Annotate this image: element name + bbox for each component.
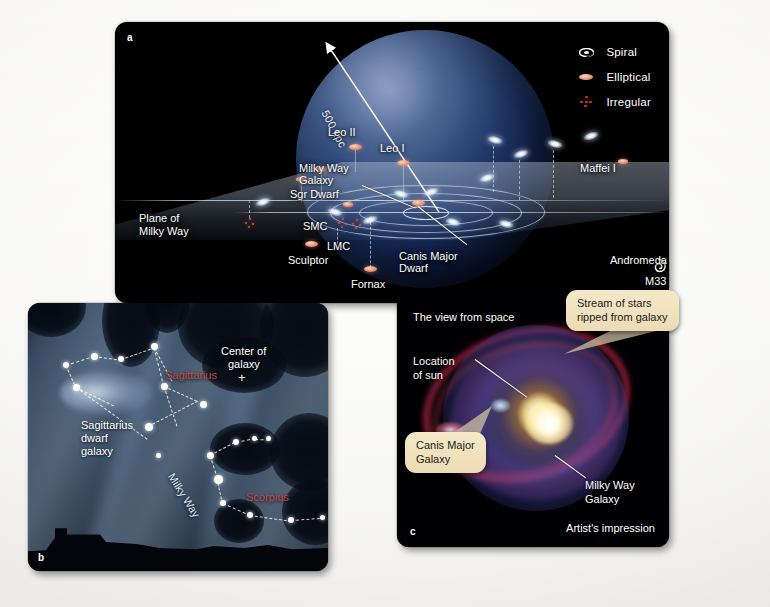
star-sgr-5 xyxy=(73,384,80,391)
label-artists-impression: Artist's impression xyxy=(566,522,655,536)
label-center-of-galaxy-line1: Center of xyxy=(221,345,266,358)
drop-line-irregular-left xyxy=(249,200,250,218)
star-sgr-4 xyxy=(151,343,158,350)
label-leo-i: Leo I xyxy=(380,142,404,155)
label-sgr-dwarf-line1: Sagittarius xyxy=(81,419,133,432)
marker-spiral-upper-right-3[interactable] xyxy=(582,130,600,143)
marker-canis-major-dwarf[interactable] xyxy=(412,200,425,206)
marker-sculptor[interactable] xyxy=(305,241,318,247)
label-m33: M33 xyxy=(645,275,666,288)
elliptical-icon xyxy=(575,74,597,81)
label-scorpius-constellation: Scorpius xyxy=(246,491,289,504)
label-milky-way-line1: Milky Way xyxy=(299,162,349,175)
label-maffei-i: Maffei I xyxy=(580,162,616,175)
star-sgr-7 xyxy=(145,423,153,431)
marker-spiral-left-outer[interactable] xyxy=(254,196,272,209)
label-sgr-dwarf-line2: dwarf xyxy=(81,432,108,445)
star-sgr-6 xyxy=(161,383,168,390)
plane-of-milky-way-label-line1: Plane of xyxy=(139,212,179,225)
label-andromeda: Andromeda xyxy=(610,254,667,267)
star-sgr-8 xyxy=(200,401,207,408)
label-milky-way-galaxy-line2: Galaxy xyxy=(585,493,619,507)
label-sagittarius-constellation: Sagittarius xyxy=(165,369,217,382)
label-view-from-space: The view from space xyxy=(413,311,514,325)
star-sco-7 xyxy=(288,517,294,523)
legend-item-spiral[interactable]: Spiral xyxy=(575,42,651,62)
panel-a-letter: a xyxy=(127,32,133,43)
label-leo-ii: Leo II xyxy=(328,126,356,139)
drop-line-leo-ii xyxy=(355,148,356,172)
marker-irregular-near-smc[interactable] xyxy=(351,219,362,230)
plane-of-milky-way-label-line2: Milky Way xyxy=(139,225,189,238)
star-sco-3 xyxy=(252,436,257,441)
callout-stream-line1: Stream of stars xyxy=(577,297,668,311)
label-location-of-sun-line1: Location xyxy=(413,355,455,369)
marker-leo-i[interactable] xyxy=(397,160,410,166)
center-of-galaxy-marker: + xyxy=(238,371,246,384)
star-sco-2 xyxy=(233,439,239,445)
callout-canis-major-galaxy[interactable]: Canis Major Galaxy xyxy=(405,432,486,473)
panel-a-stage: 500 kpc Plane of Milky Way Leo II Leo I … xyxy=(115,22,669,303)
label-location-of-sun-line2: of sun xyxy=(413,369,443,383)
horizontal-axis-line xyxy=(235,212,669,213)
label-canis-major-line2: Dwarf xyxy=(399,262,428,275)
star-sgr-1 xyxy=(63,362,69,368)
label-milky-way-line2: Galaxy xyxy=(299,174,333,187)
panel-b-letter: b xyxy=(38,552,45,563)
star-sco-5 xyxy=(220,500,226,506)
legend-label-irregular: Irregular xyxy=(606,96,651,108)
marker-leo-ii[interactable] xyxy=(349,144,362,150)
star-sco-1 xyxy=(207,452,214,459)
marker-irregular-left[interactable] xyxy=(244,218,255,229)
star-sco-antares xyxy=(214,475,223,484)
irregular-icon xyxy=(575,96,597,108)
marker-sgr-dwarf[interactable] xyxy=(343,202,353,207)
marker-maffei-i[interactable] xyxy=(618,159,628,164)
legend-item-elliptical[interactable]: Elliptical xyxy=(575,67,651,87)
star-sco-4 xyxy=(266,436,271,441)
drop-line-spiral-ur-2 xyxy=(553,150,554,198)
spiral-icon xyxy=(575,48,597,57)
label-sculptor: Sculptor xyxy=(288,254,328,267)
star-sgr-2 xyxy=(91,353,98,360)
panel-a-local-group-map[interactable]: 500 kpc Plane of Milky Way Leo II Leo I … xyxy=(115,22,669,303)
label-milky-way-galaxy-line1: Milky Way xyxy=(585,479,635,493)
drop-line-fornax xyxy=(370,222,371,268)
galactic-core xyxy=(525,403,573,444)
label-canis-major-line1: Canis Major xyxy=(399,250,458,263)
label-sgr-dwarf: Sgr Dwarf xyxy=(290,188,339,201)
star-sgr-9 xyxy=(156,453,161,458)
label-fornax: Fornax xyxy=(351,278,385,291)
panel-a-legend: Spiral Elliptical Irre xyxy=(575,42,651,117)
label-lmc: LMC xyxy=(327,240,350,253)
legend-label-spiral: Spiral xyxy=(606,46,637,58)
callout-stream-line2: ripped from galaxy xyxy=(577,311,668,325)
callout-canis-line2: Galaxy xyxy=(416,453,475,467)
star-sgr-3 xyxy=(118,356,124,362)
callout-stream-of-stars[interactable]: Stream of stars ripped from galaxy xyxy=(566,290,679,331)
panel-c-letter: c xyxy=(410,526,416,537)
panel-b-sky-view[interactable]: Center of galaxy + Sagittarius Scorpius … xyxy=(28,303,328,571)
star-sco-6 xyxy=(247,512,253,518)
marker-smc[interactable] xyxy=(337,218,348,229)
legend-label-elliptical: Elliptical xyxy=(606,71,650,83)
label-sgr-dwarf-line3: galaxy xyxy=(81,445,113,458)
drop-line-spiral-ur-1 xyxy=(519,160,520,200)
drop-line-spiral-ur-4 xyxy=(493,146,494,192)
star-sco-8 xyxy=(320,515,325,520)
legend-item-irregular[interactable]: Irregular xyxy=(575,92,651,112)
callout-canis-line1: Canis Major xyxy=(416,439,475,453)
label-smc: SMC xyxy=(303,220,327,233)
marker-fornax[interactable] xyxy=(364,266,377,272)
